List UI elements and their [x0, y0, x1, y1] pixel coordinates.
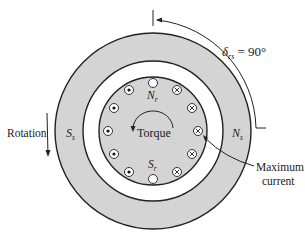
rotation-label: Rotation — [7, 127, 47, 139]
machine-diagram: δrs = 90° Rotation Ss Ns Nr Sr Torque Ma… — [0, 0, 305, 238]
rotation-arrowhead — [46, 150, 51, 157]
max-current-label-line1: Maximum — [256, 161, 304, 173]
torque-label: Torque — [137, 126, 171, 140]
max-current-label-line2: current — [262, 175, 295, 187]
delta-arrowhead — [156, 18, 162, 23]
delta-label: δrs = 90° — [222, 44, 266, 61]
conductor-empty-top — [149, 79, 158, 88]
rotation-arrow — [47, 113, 48, 155]
conductor-empty-bottom — [149, 175, 158, 184]
